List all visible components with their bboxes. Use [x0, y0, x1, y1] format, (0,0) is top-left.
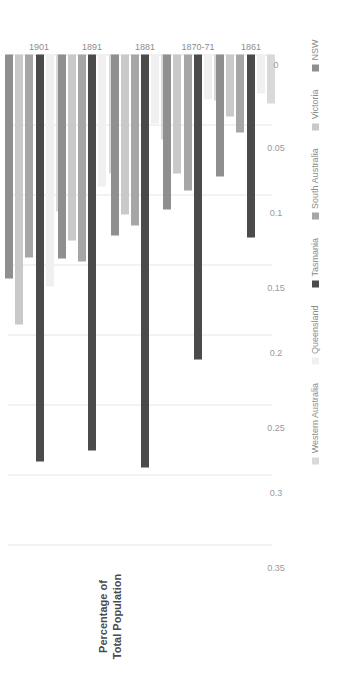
category-label: 1891: [82, 41, 102, 51]
legend-label: Queensland: [310, 305, 320, 354]
bar: [163, 54, 171, 209]
legend-label: Tasmania: [310, 237, 320, 276]
legend-swatch-icon: [312, 64, 319, 71]
value-axis-title-line1: Percentage of: [96, 541, 110, 691]
bar: [236, 54, 244, 132]
category-label: 1881: [135, 41, 155, 51]
category-label: 1901: [29, 41, 49, 51]
rotated-chart-canvas: Percentage of Total Population 0.350.30.…: [0, 0, 340, 699]
bar: [121, 54, 129, 214]
legend-item[interactable]: Tasmania: [310, 237, 320, 287]
bar: [46, 54, 54, 286]
legend-swatch-icon: [312, 280, 319, 287]
bar: [36, 54, 44, 461]
bar: [68, 54, 76, 240]
legend-swatch-icon: [312, 123, 319, 130]
legend-swatch-icon: [312, 457, 319, 464]
bar-group: [61, 54, 114, 544]
legend-item[interactable]: Western Australia: [310, 382, 320, 463]
bar: [226, 54, 234, 116]
bar: [15, 54, 23, 324]
legend-item[interactable]: Victoria: [310, 89, 320, 130]
bar: [247, 54, 255, 237]
bar: [204, 54, 212, 99]
value-axis-title-line2: Total Population: [110, 541, 124, 691]
bar: [111, 54, 119, 235]
bar: [184, 54, 192, 190]
value-axis-title: Percentage of Total Population: [96, 541, 124, 691]
bar: [141, 54, 149, 467]
legend-item[interactable]: Queensland: [310, 305, 320, 365]
bar: [194, 54, 202, 359]
value-axis-tick: 0: [273, 59, 278, 69]
legend-label: Victoria: [310, 89, 320, 119]
bar: [98, 54, 106, 186]
bar: [216, 54, 224, 177]
legend-label: NSW: [310, 39, 320, 60]
category-label: 1870-71: [181, 41, 214, 51]
category-axis-labels: 1901189118811870-711861: [8, 11, 272, 51]
legend-item[interactable]: NSW: [310, 39, 320, 71]
bar-group: [219, 54, 272, 544]
chart-legend: NSWVictoriaSouth AustraliaTasmaniaQueens…: [300, 39, 330, 599]
legend-swatch-icon: [312, 357, 319, 364]
category-label: 1861: [241, 41, 261, 51]
legend-swatch-icon: [312, 212, 319, 219]
value-axis-tick: 0.05: [267, 142, 285, 152]
bar: [88, 54, 96, 450]
bar-group: [114, 54, 167, 544]
legend-item[interactable]: South Australia: [310, 148, 320, 220]
bar: [25, 54, 33, 257]
plot-area: [8, 54, 272, 544]
bar: [58, 54, 66, 258]
value-axis-tick: 0.2: [270, 347, 283, 357]
bar: [78, 54, 86, 261]
legend-label: South Australia: [310, 148, 320, 209]
bar: [151, 54, 159, 123]
value-axis-tick-labels: 0.350.30.250.20.150.10.050: [276, 54, 302, 544]
value-axis-tick: 0.15: [267, 282, 285, 292]
chart-root: Percentage of Total Population 0.350.30.…: [0, 0, 340, 699]
value-axis-tick: 0.35: [267, 562, 285, 572]
legend-label: Western Australia: [310, 382, 320, 452]
bar: [131, 54, 139, 225]
bar-group: [8, 54, 61, 544]
bar: [5, 54, 13, 278]
value-axis-tick: 0.1: [270, 207, 283, 217]
value-axis-tick: 0.25: [267, 422, 285, 432]
bar-group: [166, 54, 219, 544]
bar: [173, 54, 181, 173]
value-axis-tick: 0.3: [270, 487, 283, 497]
bar: [257, 54, 265, 93]
